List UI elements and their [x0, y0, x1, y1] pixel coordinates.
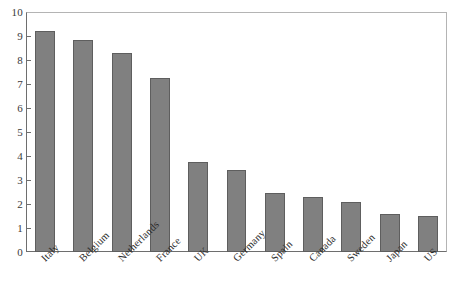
y-axis-tick-label: 6 [17, 103, 26, 114]
y-axis-tick-label: 4 [17, 151, 26, 162]
y-axis-tick-label: 8 [17, 55, 26, 66]
x-axis-labels: ItalyBelgiumNetherlandsFranceUKGermanySp… [26, 252, 447, 302]
bar [73, 40, 93, 252]
bar [418, 216, 438, 252]
y-axis-tick-label: 1 [17, 223, 26, 234]
y-axis-tick-label: 9 [17, 31, 26, 42]
bar [35, 31, 55, 252]
bar [112, 53, 132, 252]
bar [227, 170, 247, 252]
bar [188, 162, 208, 252]
bars-layer [26, 12, 447, 252]
y-axis-tick-label: 5 [17, 127, 26, 138]
y-axis-tick-label: 7 [17, 79, 26, 90]
y-axis-tick-label: 3 [17, 175, 26, 186]
y-axis: 012345678910 [0, 0, 26, 264]
bar-chart: 012345678910 ItalyBelgiumNetherlandsFran… [0, 0, 456, 302]
y-axis-tick-label: 0 [17, 247, 26, 258]
y-axis-tick-label: 10 [12, 7, 26, 18]
y-axis-tick-label: 2 [17, 199, 26, 210]
